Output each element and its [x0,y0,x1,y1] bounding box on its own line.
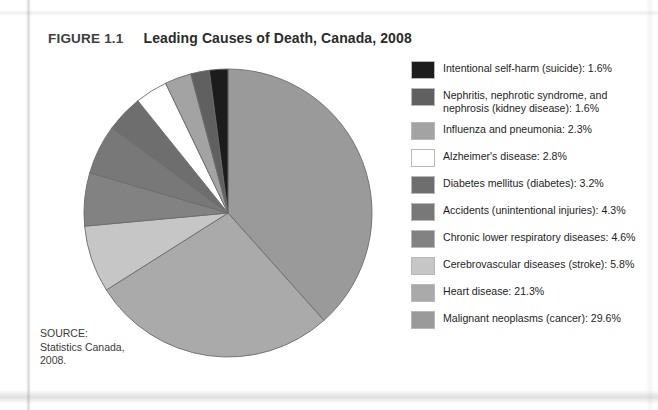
pie-chart-svg: Malignant neoplasms (cancer): 29.6%Heart… [83,68,373,358]
pie-chart: Malignant neoplasms (cancer): 29.6%Heart… [83,68,373,358]
legend-item: Cerebrovascular diseases (stroke): 5.8% [411,256,646,276]
legend-label: Nephritis, nephrotic syndrome, and nephr… [443,87,607,114]
page-edge-left-shading [26,0,31,410]
legend-label: Influenza and pneumonia: 2.3% [443,121,592,136]
legend-item: Accidents (unintentional injuries): 4.3% [411,202,646,222]
figure-number-label: FIGURE 1.1 [48,31,124,46]
legend-swatch [411,61,435,79]
legend-label: Diabetes mellitus (diabetes): 3.2% [443,175,604,190]
page-edge-right-shading [646,0,654,410]
legend-swatch [411,149,435,167]
legend-label: Accidents (unintentional injuries): 4.3% [443,202,626,217]
legend-swatch [411,311,435,329]
source-note: SOURCE: Statistics Canada, 2008. [40,327,125,368]
legend-swatch [411,203,435,221]
page-edge-top-shading [0,10,658,16]
legend-item: Malignant neoplasms (cancer): 29.6% [411,310,646,330]
legend-swatch [411,230,435,248]
figure-container: FIGURE 1.1 Leading Causes of Death, Cana… [0,0,658,410]
legend-label: Cerebrovascular diseases (stroke): 5.8% [443,256,634,271]
legend-swatch [411,176,435,194]
page-edge-bottom-shading [0,390,658,404]
legend-label: Malignant neoplasms (cancer): 29.6% [443,310,621,325]
legend-label: Chronic lower respiratory diseases: 4.6% [443,229,636,244]
legend-swatch [411,257,435,275]
legend-label: Alzheimer's disease: 2.8% [443,148,567,163]
legend-swatch [411,88,435,106]
legend: Intentional self-harm (suicide): 1.6%Nep… [411,60,646,337]
legend-item: Influenza and pneumonia: 2.3% [411,121,646,141]
legend-item: Nephritis, nephrotic syndrome, and nephr… [411,87,646,114]
legend-item: Heart disease: 21.3% [411,283,646,303]
legend-label: Intentional self-harm (suicide): 1.6% [443,60,612,75]
legend-swatch [411,122,435,140]
legend-item: Intentional self-harm (suicide): 1.6% [411,60,646,80]
legend-item: Diabetes mellitus (diabetes): 3.2% [411,175,646,195]
legend-item: Chronic lower respiratory diseases: 4.6% [411,229,646,249]
legend-label: Heart disease: 21.3% [443,283,544,298]
legend-item: Alzheimer's disease: 2.8% [411,148,646,168]
legend-swatch [411,284,435,302]
figure-header: FIGURE 1.1 Leading Causes of Death, Cana… [48,30,412,46]
figure-title: Leading Causes of Death, Canada, 2008 [144,30,412,46]
